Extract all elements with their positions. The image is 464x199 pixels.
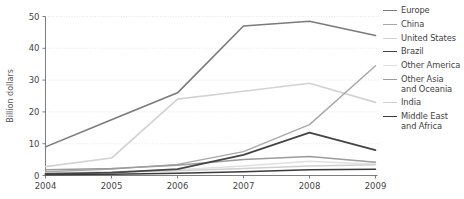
x-tick-label: 2008: [299, 181, 321, 191]
y-tick-label: 10: [29, 139, 40, 149]
legend-item[interactable]: Brazil: [383, 47, 464, 57]
y-tick-labels: 01020304050: [29, 12, 40, 181]
x-tick-label: 2006: [167, 181, 189, 191]
series-line: [46, 66, 376, 172]
legend-color-swatch: [383, 20, 397, 29]
legend-item[interactable]: India: [383, 98, 464, 108]
legend-label: Middle East and Africa: [401, 112, 448, 131]
chart-legend: EuropeChinaUnited StatesBrazilOther Amer…: [383, 6, 464, 135]
y-tick-label: 0: [34, 171, 39, 181]
legend-label: Brazil: [401, 47, 424, 57]
legend-label: Other America: [401, 61, 460, 71]
legend-item[interactable]: Middle East and Africa: [383, 112, 464, 131]
legend-item[interactable]: China: [383, 20, 464, 30]
legend-item[interactable]: United States: [383, 34, 464, 44]
x-tick-labels: 200420052006200720082009: [35, 181, 387, 191]
x-tick-label: 2004: [35, 181, 57, 191]
x-tick-label: 2007: [233, 181, 255, 191]
legend-label: Other Asia and Oceania: [401, 75, 452, 94]
legend-item[interactable]: Other America: [383, 61, 464, 71]
legend-item[interactable]: Other Asia and Oceania: [383, 75, 464, 94]
legend-item[interactable]: Europe: [383, 6, 464, 16]
legend-color-swatch: [383, 47, 397, 56]
line-chart: 01020304050 200420052006200720082009 Bil…: [0, 0, 464, 199]
series-lines: [46, 21, 376, 175]
legend-color-swatch: [383, 61, 397, 70]
series-line: [46, 83, 376, 166]
y-tick-label: 20: [29, 107, 40, 117]
legend-color-swatch: [383, 75, 397, 84]
gridlines: [46, 17, 380, 144]
legend-label: China: [401, 20, 424, 30]
x-tick-label: 2005: [101, 181, 123, 191]
x-tick-label: 2009: [365, 181, 387, 191]
legend-color-swatch: [383, 112, 397, 121]
series-line: [46, 21, 376, 147]
legend-label: United States: [401, 34, 456, 44]
axis-lines: [46, 17, 378, 176]
legend-color-swatch: [383, 34, 397, 43]
axis-ticks: [43, 17, 376, 179]
legend-color-swatch: [383, 98, 397, 107]
legend-label: Europe: [401, 6, 430, 16]
y-axis-label: Billion dollars: [6, 69, 15, 123]
y-tick-label: 50: [29, 12, 40, 22]
legend-color-swatch: [383, 6, 397, 15]
legend-label: India: [401, 98, 421, 108]
y-tick-label: 40: [29, 43, 40, 53]
y-axis-label-text: Billion dollars: [6, 69, 15, 123]
y-tick-label: 30: [29, 75, 40, 85]
